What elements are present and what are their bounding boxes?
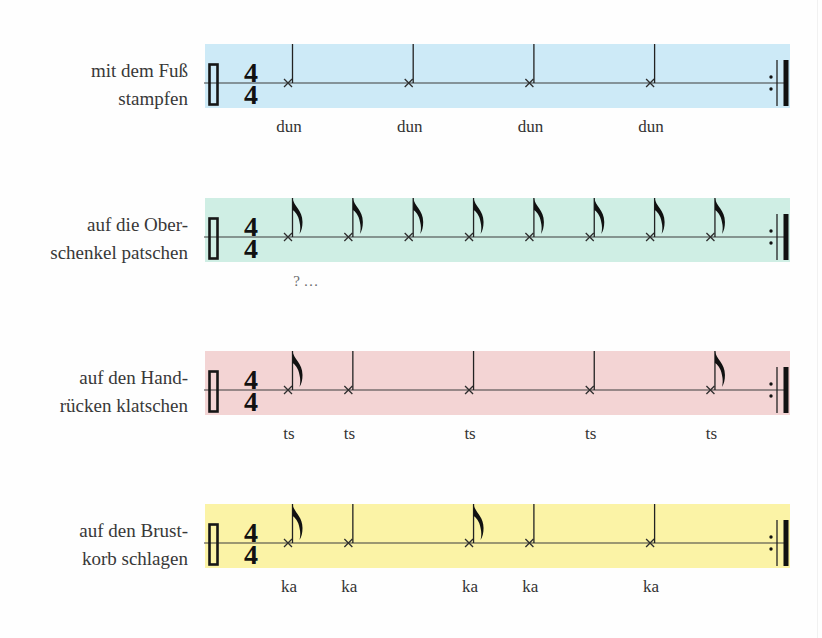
row-chest-beat: auf den Brust- korb schlagen 4 4 kakakak… [0, 504, 822, 604]
syllable: ts [344, 424, 355, 444]
syllable: ts [585, 424, 596, 444]
syllable: dun [518, 117, 544, 137]
syllable: ? … [293, 271, 318, 291]
syllable: ts [283, 424, 294, 444]
row-thigh-pat: auf die Ober- schenkel patschen 4 4 ? … [0, 198, 822, 298]
syllable: ka [341, 577, 357, 597]
row-foot-stamp: mit dem Fuß stampfen 4 4 dundundundun [0, 44, 822, 144]
syllable: ka [462, 577, 478, 597]
syllable: dun [276, 117, 302, 137]
syllable: ka [643, 577, 659, 597]
body-percussion-score: mit dem Fuß stampfen 4 4 dundundundun au… [0, 0, 822, 638]
syllables: ? … [0, 198, 822, 298]
syllable: dun [397, 117, 423, 137]
syllables: kakakakaka [0, 504, 822, 604]
syllables: tststststs [0, 351, 822, 451]
syllable: ts [464, 424, 475, 444]
syllable: dun [638, 117, 664, 137]
syllable: ka [281, 577, 297, 597]
syllables: dundundundun [0, 44, 822, 144]
syllable: ts [706, 424, 717, 444]
syllable: ka [522, 577, 538, 597]
row-hand-clap: auf den Hand- rücken klatschen 4 4 tstst… [0, 351, 822, 451]
